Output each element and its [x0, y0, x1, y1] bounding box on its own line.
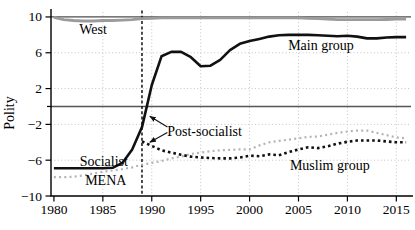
- series-label-mena: MENA: [85, 173, 127, 188]
- y-tick-label--2: −2: [28, 117, 42, 132]
- y-tick-label-10: 10: [29, 9, 43, 24]
- x-tick-label-1985: 1985: [89, 202, 116, 217]
- series-label-west: West: [79, 22, 107, 37]
- series-labels: WestMain groupPost-socialistSocialistMEN…: [79, 22, 369, 188]
- y-tick-label-6: 6: [35, 45, 42, 60]
- series-label-main-group: Main group: [288, 38, 354, 53]
- series-label-post-socialist: Post-socialist: [167, 124, 242, 139]
- x-tick-label-2015: 2015: [383, 202, 410, 217]
- x-tick-label-2010: 2010: [334, 202, 361, 217]
- series-muslim-group: [142, 141, 406, 159]
- x-tick-label-2005: 2005: [285, 202, 312, 217]
- annotation-arrow-post-socialist-to-main: [150, 116, 168, 127]
- polity-trends-chart: 198019851990199520002005201020151062−2−6…: [0, 0, 415, 230]
- x-tick-label-1990: 1990: [138, 202, 165, 217]
- y-tick-label--10: −10: [21, 189, 42, 204]
- series-west: [54, 17, 406, 21]
- x-tick-label-1995: 1995: [187, 202, 214, 217]
- series-label-muslim-group: Muslim group: [290, 158, 370, 173]
- x-tick-label-2000: 2000: [236, 202, 263, 217]
- y-axis-title: Polity: [2, 96, 17, 129]
- y-tick-label-2: 2: [35, 81, 42, 96]
- series-main-group: [54, 35, 406, 168]
- series-label-socialist: Socialist: [80, 154, 128, 169]
- y-tick-label--6: −6: [28, 153, 43, 168]
- chart-canvas: 198019851990199520002005201020151062−2−6…: [0, 0, 415, 230]
- annotation-arrow-post-socialist-to-muslim: [150, 132, 168, 142]
- x-tick-label-1980: 1980: [40, 202, 67, 217]
